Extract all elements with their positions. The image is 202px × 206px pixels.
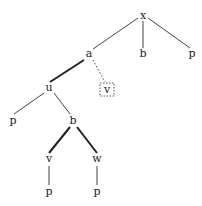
- edge-b-w: [77, 127, 97, 153]
- node-p: p: [45, 185, 52, 198]
- tree-diagram: x a b p u v p b v w p p: [0, 0, 202, 206]
- node-p: p: [93, 185, 100, 198]
- edge-u-b: [54, 93, 70, 114]
- node-v: v: [45, 152, 53, 165]
- edge-a-v: [93, 60, 105, 82]
- node-x: x: [140, 9, 147, 22]
- node-v-boxed: v: [103, 83, 111, 96]
- edge-x-a: [93, 18, 138, 49]
- node-u: u: [45, 81, 52, 94]
- node-w: w: [92, 152, 102, 165]
- node-p: p: [9, 114, 16, 127]
- edge-a-u: [50, 60, 84, 82]
- node-b: b: [69, 114, 76, 127]
- edge-u-p: [14, 93, 44, 114]
- edge-x-p: [148, 18, 190, 48]
- edge-b-v: [49, 127, 70, 153]
- node-p: p: [188, 47, 195, 60]
- node-a: a: [86, 47, 93, 60]
- node-b: b: [139, 47, 146, 60]
